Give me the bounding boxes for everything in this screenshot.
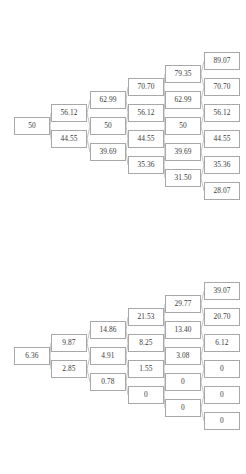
underlying-price-lattice: 5056.1244.5562.995039.6970.7056.1244.553… xyxy=(0,0,246,237)
lattice-node: 56.12 xyxy=(204,104,240,122)
lattice-node: 50 xyxy=(14,117,50,135)
lattice-node: 50 xyxy=(165,117,201,135)
lattice-node: 8.25 xyxy=(128,334,164,352)
lattice-node: 28.07 xyxy=(204,182,240,200)
lattice-node: 21.53 xyxy=(128,308,164,326)
lattice-node: 70.70 xyxy=(204,78,240,96)
lattice-node: 50 xyxy=(90,117,126,135)
lattice-node: 9.87 xyxy=(51,334,87,352)
lattice-node: 35.36 xyxy=(128,156,164,174)
lattice-node: 62.99 xyxy=(90,91,126,109)
lattice-node: 56.12 xyxy=(128,104,164,122)
lattice-node: 2.85 xyxy=(51,360,87,378)
lattice-node: 0 xyxy=(204,412,240,430)
lattice-node: 20.70 xyxy=(204,308,240,326)
lattice-node: 1.55 xyxy=(128,360,164,378)
lattice-node: 4.91 xyxy=(90,347,126,365)
option-value-lattice: 6.369.872.8514.864.910.7821.538.251.5502… xyxy=(0,230,246,467)
lattice-node: 56.12 xyxy=(51,104,87,122)
lattice-node: 70.70 xyxy=(128,78,164,96)
lattice-node: 39.07 xyxy=(204,282,240,300)
lattice-node: 29.77 xyxy=(165,295,201,313)
lattice-node: 0 xyxy=(165,373,201,391)
lattice-node: 62.99 xyxy=(165,91,201,109)
lattice-node: 44.55 xyxy=(51,130,87,148)
lattice-node: 0 xyxy=(204,386,240,404)
lattice-node: 0.78 xyxy=(90,373,126,391)
lattice-node: 3.08 xyxy=(165,347,201,365)
lattice-node: 6.12 xyxy=(204,334,240,352)
lattice-node: 44.55 xyxy=(204,130,240,148)
lattice-node: 13.40 xyxy=(165,321,201,339)
lattice-node: 39.69 xyxy=(165,143,201,161)
lattice-node: 0 xyxy=(128,386,164,404)
lattice-node: 44.55 xyxy=(128,130,164,148)
lattice-node: 79.35 xyxy=(165,65,201,83)
lattice-node: 6.36 xyxy=(14,347,50,365)
lattice-node: 31.50 xyxy=(165,169,201,187)
lattice-node: 39.69 xyxy=(90,143,126,161)
lattice-node: 35.36 xyxy=(204,156,240,174)
lattice-node: 0 xyxy=(204,360,240,378)
lattice-node: 89.07 xyxy=(204,52,240,70)
lattice-node: 0 xyxy=(165,399,201,417)
lattice-node: 14.86 xyxy=(90,321,126,339)
